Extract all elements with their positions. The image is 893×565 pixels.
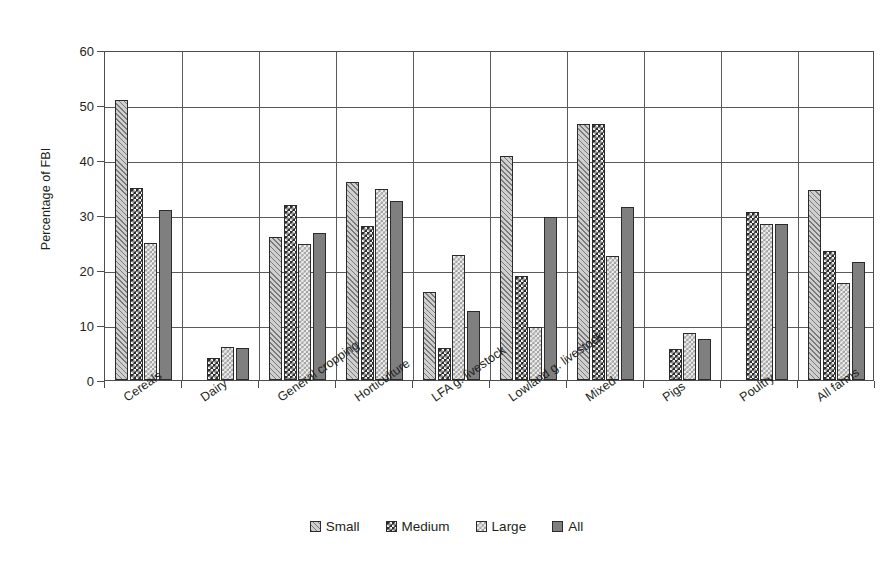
legend-label: Medium	[402, 519, 450, 534]
bar	[746, 212, 759, 380]
legend-item[interactable]: All	[552, 519, 583, 534]
gridline-vertical	[644, 52, 645, 380]
gridline-vertical	[413, 52, 414, 380]
chart-legend: SmallMediumLargeAll	[0, 519, 893, 534]
plot-area	[104, 51, 874, 381]
legend-swatch-all	[552, 521, 563, 532]
x-axis-tick-mark	[104, 381, 105, 388]
gridline-vertical	[182, 52, 183, 380]
gridline-horizontal	[105, 107, 873, 108]
x-axis-tick-mark	[489, 381, 490, 388]
y-axis-tick-mark	[97, 271, 104, 272]
legend-item[interactable]: Small	[310, 519, 360, 534]
bar	[390, 201, 403, 380]
gridline-vertical	[567, 52, 568, 380]
gridline-vertical	[490, 52, 491, 380]
x-axis-tick-mark	[258, 381, 259, 388]
y-axis-tick-mark	[97, 326, 104, 327]
y-axis-tick-label: 50	[48, 99, 94, 114]
bar	[361, 226, 374, 380]
bar	[207, 358, 220, 380]
x-axis-tick-mark	[335, 381, 336, 388]
gridline-horizontal	[105, 162, 873, 163]
bar	[515, 276, 528, 380]
gridline-vertical	[721, 52, 722, 380]
legend-swatch-medium	[386, 521, 397, 532]
gridline-vertical	[336, 52, 337, 380]
y-axis-tick-label: 0	[48, 374, 94, 389]
legend-item[interactable]: Large	[476, 519, 527, 534]
x-axis-tick-mark	[720, 381, 721, 388]
bar	[698, 339, 711, 380]
bar	[823, 251, 836, 380]
y-axis-tick-label: 60	[48, 44, 94, 59]
bar	[284, 205, 297, 380]
bar	[837, 283, 850, 380]
gridline-vertical	[798, 52, 799, 380]
bar	[760, 224, 773, 380]
bar	[423, 292, 436, 380]
legend-label: Large	[492, 519, 527, 534]
bar	[221, 347, 234, 380]
bar-chart: Percentage of FBI 0102030405060 CerealsD…	[0, 0, 893, 565]
bar	[159, 210, 172, 380]
y-axis-tick-label: 20	[48, 264, 94, 279]
legend-item[interactable]: Medium	[386, 519, 450, 534]
bar	[452, 255, 465, 380]
bar	[808, 190, 821, 380]
bar	[144, 243, 157, 380]
bar	[130, 188, 143, 381]
x-axis-tick-mark	[797, 381, 798, 388]
bar	[775, 224, 788, 380]
bar	[438, 348, 451, 380]
bar	[544, 217, 557, 380]
bar	[669, 349, 682, 380]
x-axis-tick-mark	[874, 381, 875, 388]
y-axis-tick-label: 10	[48, 319, 94, 334]
y-axis-tick-label: 30	[48, 209, 94, 224]
y-axis-tick-mark	[97, 161, 104, 162]
bar	[852, 262, 865, 380]
y-axis-tick-label: 40	[48, 154, 94, 169]
y-axis-tick-mark	[97, 51, 104, 52]
x-axis-tick-mark	[566, 381, 567, 388]
legend-swatch-large	[476, 521, 487, 532]
y-axis-tick-mark	[97, 381, 104, 382]
x-axis-category-label: Pigs	[660, 379, 688, 404]
legend-label: All	[568, 519, 583, 534]
x-axis-tick-mark	[643, 381, 644, 388]
bar	[298, 244, 311, 380]
gridline-vertical	[259, 52, 260, 380]
y-axis-tick-mark	[97, 106, 104, 107]
legend-label: Small	[326, 519, 360, 534]
y-axis-tick-mark	[97, 216, 104, 217]
bar	[621, 207, 634, 380]
bar	[375, 189, 388, 380]
bar	[115, 100, 128, 381]
bar	[269, 237, 282, 380]
legend-swatch-small	[310, 521, 321, 532]
x-axis-tick-mark	[181, 381, 182, 388]
y-axis-title: Percentage of FBI	[39, 109, 53, 289]
x-axis-tick-mark	[412, 381, 413, 388]
bar	[606, 256, 619, 380]
bar	[683, 333, 696, 380]
bar	[236, 348, 249, 380]
